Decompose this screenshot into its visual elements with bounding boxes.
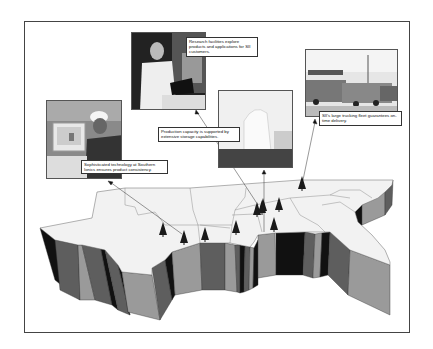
caption-research: Research facilities explore products and…: [186, 37, 258, 57]
caption-technology: Sophisticated technology at Southern Ion…: [81, 160, 168, 174]
truck-fleet-photo: [305, 49, 398, 117]
caption-storage: Production capacity is supported by exte…: [158, 127, 240, 142]
caption-trucking: SII's large trucking fleet guarantees on…: [319, 111, 402, 126]
